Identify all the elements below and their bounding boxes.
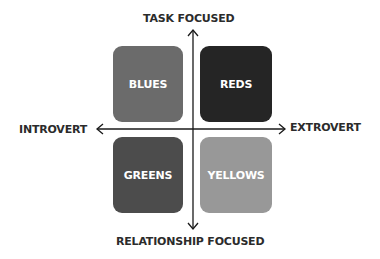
axis-label-top: TASK FOCUSED (143, 12, 234, 25)
axis-label-left: INTROVERT (19, 123, 87, 136)
axis-label-right: EXTROVERT (290, 121, 361, 134)
axis-label-bottom: RELATIONSHIP FOCUSED (116, 235, 264, 248)
